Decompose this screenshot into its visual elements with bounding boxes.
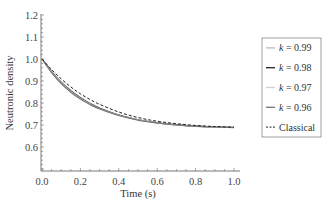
y-tick-label: 0.7: [25, 120, 38, 131]
y-axis-label: Neutronic density: [4, 55, 15, 131]
legend-label: k = 0.99: [279, 42, 312, 53]
x-tick-label: 0.8: [189, 176, 202, 187]
series-line-k-0-99: [42, 59, 234, 127]
legend-label: k = 0.96: [279, 102, 312, 113]
legend-label: Classical: [279, 122, 315, 133]
x-axis-label: Time (s): [120, 188, 156, 200]
y-tick-label: 0.8: [25, 98, 38, 109]
legend-label: k = 0.97: [279, 82, 312, 93]
series-line-classical: [42, 59, 234, 127]
axes: 0.60.70.80.91.01.11.20.00.20.40.60.81.0: [25, 10, 241, 188]
line-chart: 0.60.70.80.91.01.11.20.00.20.40.60.81.0 …: [0, 0, 331, 208]
x-tick-label: 0.4: [112, 176, 126, 187]
legend: k = 0.99k = 0.98k = 0.97k = 0.96Classica…: [262, 38, 321, 137]
y-tick-label: 1.0: [25, 54, 38, 65]
series-line-k-0-96: [42, 59, 234, 128]
data-curves: [42, 59, 234, 128]
legend-label: k = 0.98: [279, 62, 312, 73]
x-tick-label: 1.0: [227, 176, 240, 187]
x-tick-label: 0.0: [35, 176, 48, 187]
series-line-k-0-98: [42, 59, 234, 127]
x-tick-label: 0.6: [151, 176, 164, 187]
series-line-k-0-97: [42, 59, 234, 127]
y-tick-label: 1.1: [25, 32, 38, 43]
y-tick-label: 0.6: [25, 142, 38, 153]
y-tick-label: 1.2: [25, 10, 38, 21]
x-tick-label: 0.2: [74, 176, 87, 187]
y-tick-label: 0.9: [25, 76, 38, 87]
